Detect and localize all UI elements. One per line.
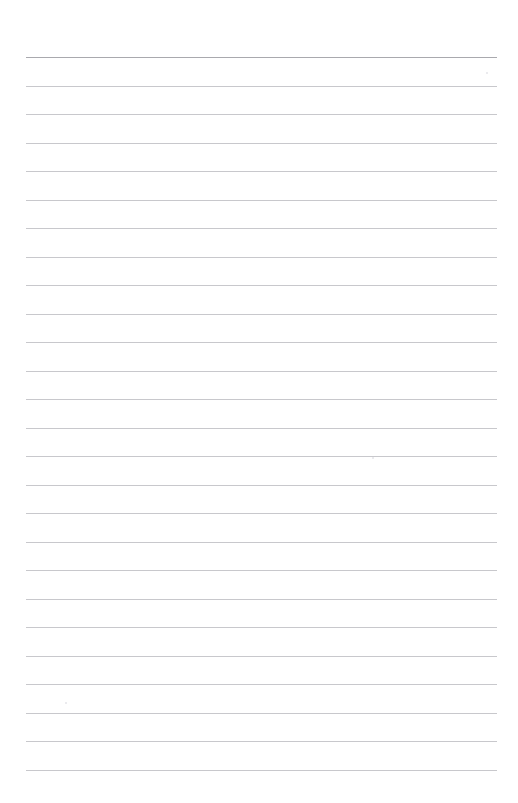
scan-speck [65, 702, 67, 704]
scan-speck [486, 72, 488, 74]
scan-speck [372, 457, 374, 459]
page-content-layer[interactable] [0, 0, 518, 803]
paper-page [0, 0, 518, 803]
